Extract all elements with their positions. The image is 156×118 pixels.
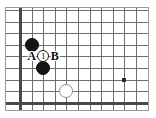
move-marker-label: 1 xyxy=(41,52,46,61)
grid-line-vertical xyxy=(113,8,114,110)
point-label-a: A xyxy=(27,50,36,62)
grid-line-vertical xyxy=(90,8,91,110)
move-marker-1[interactable]: 1 xyxy=(37,50,49,62)
white-stone[interactable] xyxy=(59,84,73,98)
go-board: 1AB xyxy=(6,8,148,110)
grid-line-vertical xyxy=(136,8,137,110)
grid-line-vertical xyxy=(78,8,79,110)
board-edge-bottom xyxy=(6,102,148,105)
grid-line-vertical xyxy=(101,8,102,110)
grid-line-horizontal xyxy=(6,22,148,23)
grid-line-horizontal xyxy=(6,68,148,69)
star-point-right xyxy=(122,78,126,82)
board-edge-left xyxy=(19,8,22,110)
grid-line-vertical xyxy=(124,8,125,110)
go-diagram: 1AB xyxy=(0,0,156,118)
grid-line-horizontal xyxy=(6,10,148,11)
grid-line-horizontal xyxy=(6,91,148,92)
point-label-b: B xyxy=(51,50,59,62)
grid-line-horizontal xyxy=(6,33,148,34)
black-stone-lower[interactable] xyxy=(36,61,50,75)
grid-line-horizontal xyxy=(6,80,148,81)
